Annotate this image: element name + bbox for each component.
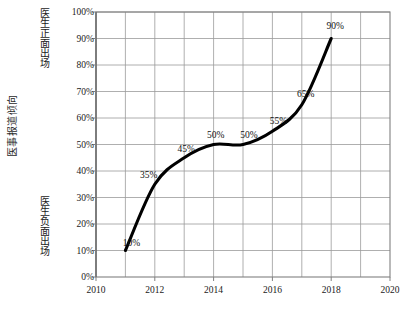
line-chart: 医事报道倾向 医生正面出场 医生负面出场 0%10%20%30%40%50%60…	[0, 0, 406, 310]
data-point-label-5: 55%	[258, 116, 298, 126]
data-point-label-2: 45%	[166, 144, 206, 154]
data-point-label-4: 50%	[229, 130, 269, 140]
data-point-labels: 10%35%45%50%50%55%65%90%	[0, 0, 406, 310]
data-point-label-7: 90%	[315, 21, 355, 31]
data-point-label-0: 10%	[111, 238, 151, 248]
data-point-label-1: 35%	[129, 170, 169, 180]
data-point-label-6: 65%	[286, 89, 326, 99]
